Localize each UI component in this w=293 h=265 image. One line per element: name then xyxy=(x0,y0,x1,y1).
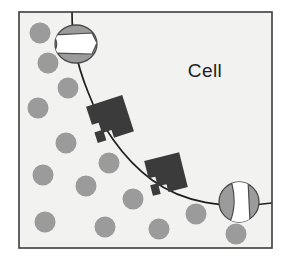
molecule-dot xyxy=(149,219,170,240)
molecule-dot xyxy=(33,165,54,186)
diagram-canvas: Cell xyxy=(0,0,293,265)
molecule-dot xyxy=(56,133,77,154)
molecule-dot xyxy=(30,23,51,44)
molecule-dot xyxy=(58,78,79,99)
molecule-dot xyxy=(186,204,207,225)
molecule-dot xyxy=(123,189,144,210)
molecule-dot xyxy=(226,224,247,245)
molecule-dot xyxy=(35,212,56,233)
cell-membrane-figure: Cell xyxy=(0,0,293,265)
cell-label: Cell xyxy=(188,60,222,81)
molecule-dot xyxy=(95,217,116,238)
molecule-dot xyxy=(99,153,120,174)
molecule-dot xyxy=(76,176,97,197)
molecule-dot xyxy=(28,98,49,119)
molecule-dot xyxy=(38,53,59,74)
channel-pore xyxy=(53,33,97,54)
